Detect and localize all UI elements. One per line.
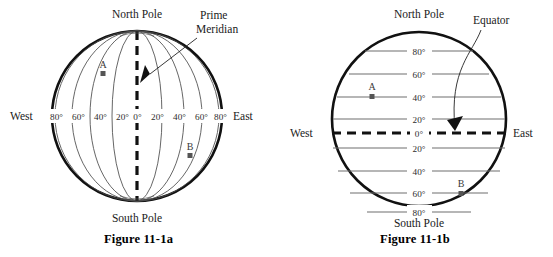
longitude-degree-labels: 80° 60° 40° 20° 0° 20° 40° 60° 80° — [47, 109, 230, 123]
degree-label-0: 0° — [133, 112, 142, 122]
south-pole-label-a: South Pole — [112, 212, 162, 224]
point-b-dot-fig-b — [459, 191, 464, 196]
point-a-label-fig-a: A — [99, 59, 107, 70]
latitude-globe-svg: North Pole — [277, 0, 553, 232]
latitude-degree-labels: 80° 60° 40° 20° 0° 20° 40° 60° 80° — [407, 44, 432, 219]
degree-label-20s: 20° — [413, 144, 426, 154]
west-label-b: West — [290, 127, 314, 139]
degree-label-40w: 40° — [94, 112, 107, 122]
prime-meridian-callout-line2: Meridian — [196, 23, 238, 35]
degree-label-20w: 20° — [116, 112, 129, 122]
prime-meridian-callout-line1: Prime — [200, 9, 227, 21]
figure-panel-longitude: North Pole — [0, 0, 277, 257]
degree-label-60n: 60° — [413, 70, 426, 80]
east-label-a: East — [233, 110, 254, 122]
point-b-label-fig-b: B — [458, 178, 465, 189]
figure-panel-latitude: North Pole — [277, 0, 553, 257]
degree-label-60e: 60° — [195, 112, 208, 122]
degree-label-0-equator: 0° — [415, 129, 424, 139]
degree-label-40n: 40° — [413, 93, 426, 103]
point-a-dot-fig-b — [370, 94, 375, 99]
degree-label-20e: 20° — [151, 112, 164, 122]
degree-label-40s: 40° — [413, 167, 426, 177]
degree-label-40e: 40° — [173, 112, 186, 122]
point-b-label-fig-a: B — [187, 141, 194, 152]
north-pole-label-a: North Pole — [112, 8, 162, 20]
west-label-a: West — [10, 110, 34, 122]
point-a-label-fig-b: A — [368, 81, 376, 92]
figure-caption-b: Figure 11-1b — [277, 232, 553, 247]
longitude-globe-svg: North Pole — [0, 0, 277, 232]
point-b-dot-fig-a — [188, 153, 193, 158]
degree-label-80e: 80° — [214, 112, 227, 122]
equator-callout-label: Equator — [473, 14, 510, 27]
point-a-dot-fig-a — [101, 71, 106, 76]
south-pole-label-b: South Pole — [394, 217, 444, 229]
east-label-b: East — [513, 127, 534, 139]
north-pole-label-b: North Pole — [394, 8, 444, 20]
degree-label-20n: 20° — [413, 115, 426, 125]
figure-caption-a: Figure 11-1a — [0, 232, 277, 247]
degree-label-60w: 60° — [72, 112, 85, 122]
degree-label-80n: 80° — [413, 47, 426, 57]
degree-label-80w: 80° — [50, 112, 63, 122]
degree-label-60s: 60° — [413, 189, 426, 199]
figure-sheet: North Pole — [0, 0, 553, 257]
